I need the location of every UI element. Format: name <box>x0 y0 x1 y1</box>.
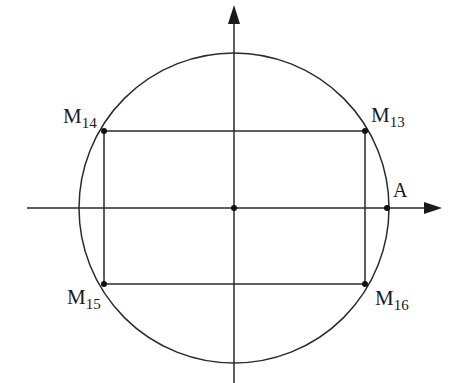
x-axis-arrow-icon <box>424 202 442 214</box>
point-a <box>384 205 390 211</box>
point-m16 <box>362 281 368 287</box>
point-m14 <box>101 128 107 134</box>
point-m15 <box>101 281 107 287</box>
label-m16: M16 <box>375 286 409 313</box>
label-m14: M14 <box>63 104 97 131</box>
label-a: A <box>393 179 408 201</box>
origin-point <box>231 205 237 211</box>
label-m15: M15 <box>67 285 101 312</box>
point-m13 <box>362 128 368 134</box>
y-axis-arrow-icon <box>228 5 240 24</box>
label-m13: M13 <box>371 103 405 130</box>
unit-circle-diagram: M13 M14 M15 M16 A <box>0 0 463 383</box>
